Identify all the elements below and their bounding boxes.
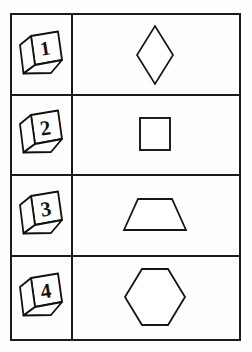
numbered-cube-icon: 2 [18, 107, 66, 161]
table-row: 3 Trapezoid [12, 174, 239, 255]
shape-cell: Square [71, 94, 239, 174]
numbered-cube-icon: 1 [18, 28, 66, 82]
numbered-cube-icon: 3 [18, 188, 66, 242]
number-cell: 2 [12, 94, 71, 174]
shape-cell: Trapezoid [71, 174, 239, 255]
square-shape [138, 116, 172, 152]
worksheet-page: 1 Rhombus 2 [0, 0, 252, 352]
numbered-cube-icon: 4 [18, 270, 66, 324]
table-row: 2 Square [12, 94, 239, 174]
rhombus-shape [133, 24, 177, 86]
number-cell: 1 [12, 15, 71, 94]
trapezoid-shape [122, 197, 188, 233]
table-row: 1 Rhombus [12, 15, 239, 94]
table-row: 4 Hexagon [12, 255, 239, 339]
number-cell: 4 [12, 255, 71, 339]
shape-cell: Hexagon [71, 255, 239, 339]
shape-cell: Rhombus [71, 15, 239, 94]
shapes-table: 1 Rhombus 2 [10, 13, 241, 341]
hexagon-shape [123, 267, 187, 327]
number-cell: 3 [12, 174, 71, 255]
